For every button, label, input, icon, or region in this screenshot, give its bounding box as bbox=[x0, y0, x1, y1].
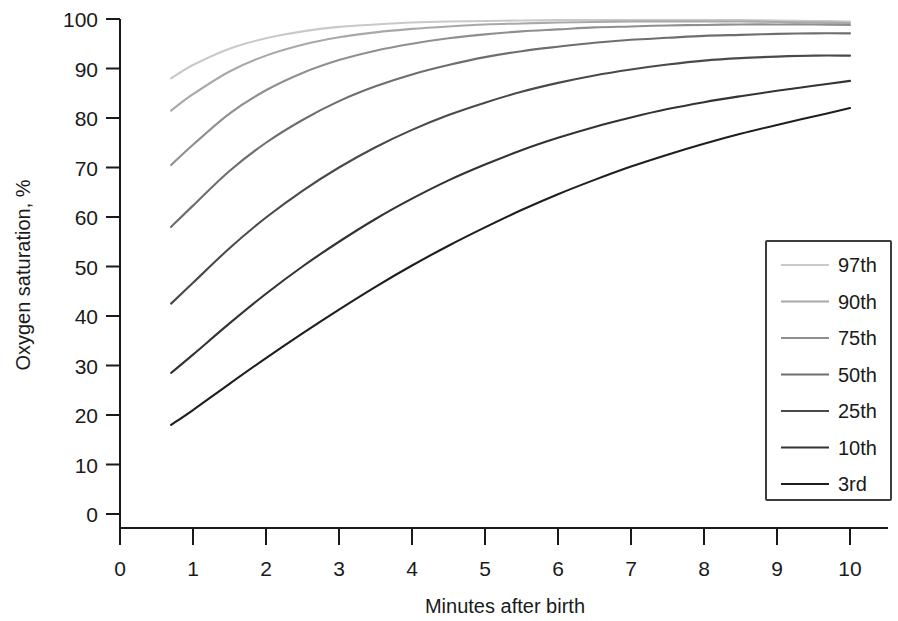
y-tick-label: 70 bbox=[75, 157, 98, 180]
legend-label-10th: 10th bbox=[838, 437, 877, 459]
legend-label-50th: 50th bbox=[838, 364, 877, 386]
x-tick-label: 1 bbox=[187, 557, 199, 580]
series-line-97th bbox=[171, 20, 850, 78]
x-tick-label: 4 bbox=[406, 557, 418, 580]
legend-label-3rd: 3rd bbox=[838, 473, 867, 495]
series-line-25th bbox=[171, 56, 850, 304]
legend-label-25th: 25th bbox=[838, 400, 877, 422]
x-axis-tick-labels: 0 1 2 3 4 5 6 7 8 9 10 bbox=[114, 557, 862, 580]
x-tick-label: 5 bbox=[479, 557, 491, 580]
y-tick-label: 30 bbox=[75, 355, 98, 378]
x-axis-title: Minutes after birth bbox=[425, 595, 585, 617]
series-line-50th bbox=[171, 33, 850, 227]
y-axis-tick-labels: 100 90 80 70 60 50 40 30 20 10 0 bbox=[63, 8, 98, 526]
x-tick-label: 7 bbox=[625, 557, 637, 580]
x-axis-ticks bbox=[120, 528, 850, 545]
legend-label-75th: 75th bbox=[838, 327, 877, 349]
x-tick-label: 9 bbox=[771, 557, 783, 580]
y-axis-title: Oxygen saturation, % bbox=[12, 179, 34, 370]
x-tick-label: 3 bbox=[333, 557, 345, 580]
y-tick-label: 100 bbox=[63, 8, 98, 31]
chart-container: 100 90 80 70 60 50 40 30 20 10 0 bbox=[0, 0, 898, 621]
y-tick-label: 90 bbox=[75, 58, 98, 81]
y-tick-label: 0 bbox=[86, 503, 98, 526]
data-series-group bbox=[171, 20, 850, 425]
x-tick-label: 6 bbox=[552, 557, 564, 580]
x-tick-label: 8 bbox=[698, 557, 710, 580]
y-tick-label: 40 bbox=[75, 305, 98, 328]
y-tick-label: 60 bbox=[75, 206, 98, 229]
y-tick-label: 80 bbox=[75, 107, 98, 130]
legend-label-97th: 97th bbox=[838, 254, 877, 276]
series-line-3rd bbox=[171, 108, 850, 425]
x-tick-label: 0 bbox=[114, 557, 126, 580]
oxygen-saturation-percentile-chart: 100 90 80 70 60 50 40 30 20 10 0 bbox=[0, 0, 898, 621]
y-tick-label: 20 bbox=[75, 404, 98, 427]
y-tick-label: 50 bbox=[75, 256, 98, 279]
y-tick-label: 10 bbox=[75, 454, 98, 477]
x-axis-line bbox=[120, 514, 888, 528]
legend: 97th90th75th50th25th10th3rd bbox=[766, 241, 891, 500]
legend-label-90th: 90th bbox=[838, 291, 877, 313]
x-tick-label: 2 bbox=[260, 557, 272, 580]
series-line-10th bbox=[171, 81, 850, 373]
y-axis-ticks bbox=[106, 19, 120, 514]
x-tick-label: 10 bbox=[838, 557, 861, 580]
